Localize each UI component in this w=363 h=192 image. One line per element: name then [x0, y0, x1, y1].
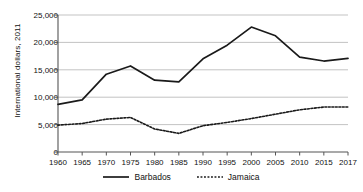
legend-item-jamaica[interactable]: Jamaica [197, 172, 260, 182]
legend-swatch-jamaica [197, 173, 223, 181]
legend-label-barbados: Barbados [134, 172, 170, 182]
legend-swatch-barbados [103, 173, 129, 181]
chart-legend: BarbadosJamaica [0, 172, 363, 182]
series-line-barbados [58, 27, 348, 104]
legend-item-barbados[interactable]: Barbados [103, 172, 170, 182]
plot-area [0, 0, 363, 192]
series-line-jamaica [58, 107, 348, 133]
legend-label-jamaica: Jamaica [228, 172, 260, 182]
chart-container: International dollars, 2011 05,00010,000… [0, 0, 363, 192]
